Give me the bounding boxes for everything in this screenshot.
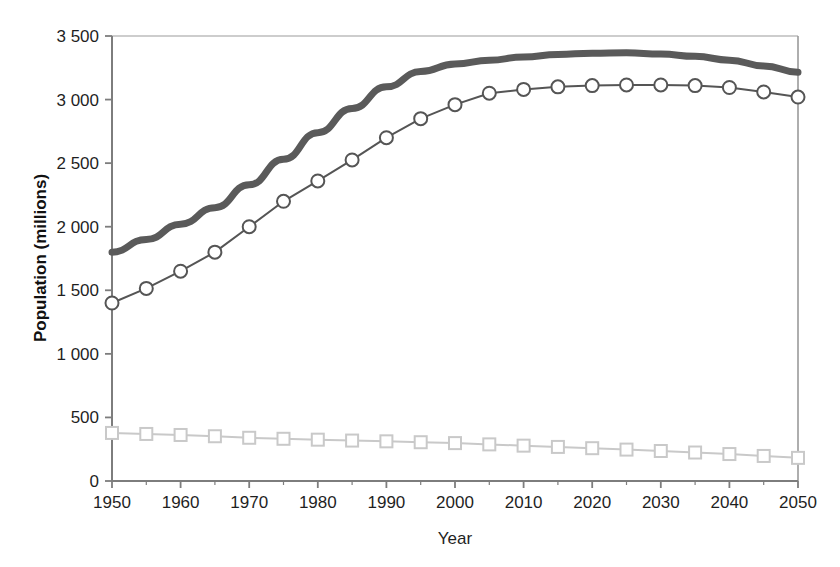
x-tick-label: 1990 bbox=[367, 493, 405, 512]
data-point-circle bbox=[208, 246, 221, 259]
data-point-square bbox=[689, 447, 701, 459]
data-point-circle bbox=[517, 83, 530, 96]
y-tick-label: 3 000 bbox=[56, 91, 99, 110]
x-axis-title: Year bbox=[438, 529, 473, 548]
data-point-square bbox=[792, 452, 804, 464]
data-point-circle bbox=[346, 153, 359, 166]
population-line-chart: 05001 0001 5002 0002 5003 0003 500 19501… bbox=[0, 0, 840, 567]
x-tick-label: 1970 bbox=[230, 493, 268, 512]
data-point-circle bbox=[586, 79, 599, 92]
data-point-circle bbox=[414, 112, 427, 125]
data-point-square bbox=[758, 450, 770, 462]
data-point-square bbox=[380, 435, 392, 447]
data-point-circle bbox=[449, 98, 462, 111]
x-tick-label: 2020 bbox=[573, 493, 611, 512]
x-tick-label: 1980 bbox=[299, 493, 337, 512]
data-point-square bbox=[278, 433, 290, 445]
data-point-circle bbox=[243, 220, 256, 233]
y-tick-label: 2 500 bbox=[56, 154, 99, 173]
chart-canvas: 05001 0001 5002 0002 5003 0003 500 19501… bbox=[0, 0, 840, 567]
data-point-square bbox=[483, 438, 495, 450]
x-tick-label: 2010 bbox=[505, 493, 543, 512]
data-point-circle bbox=[723, 81, 736, 94]
data-point-square bbox=[552, 441, 564, 453]
x-tick-label: 2030 bbox=[642, 493, 680, 512]
data-point-square bbox=[140, 428, 152, 440]
data-point-square bbox=[106, 427, 118, 439]
y-tick-label: 2 000 bbox=[56, 218, 99, 237]
x-tick-label: 1960 bbox=[162, 493, 200, 512]
data-point-circle bbox=[174, 265, 187, 278]
data-point-square bbox=[655, 445, 667, 457]
data-point-square bbox=[621, 444, 633, 456]
data-point-square bbox=[346, 435, 358, 447]
data-point-circle bbox=[311, 174, 324, 187]
data-point-circle bbox=[140, 282, 153, 295]
y-tick-label: 1 000 bbox=[56, 345, 99, 364]
y-tick-label: 500 bbox=[71, 408, 99, 427]
x-tick-label: 2050 bbox=[779, 493, 817, 512]
data-point-circle bbox=[620, 78, 633, 91]
y-tick-label: 1 500 bbox=[56, 281, 99, 300]
data-point-square bbox=[586, 442, 598, 454]
data-point-square bbox=[415, 436, 427, 448]
y-axis-title: Population (millions) bbox=[31, 174, 50, 342]
y-tick-label: 0 bbox=[90, 472, 99, 491]
data-point-circle bbox=[792, 91, 805, 104]
data-point-circle bbox=[551, 80, 564, 93]
data-point-circle bbox=[106, 297, 119, 310]
data-point-square bbox=[209, 430, 221, 442]
data-point-square bbox=[175, 429, 187, 441]
data-point-square bbox=[518, 440, 530, 452]
data-point-circle bbox=[757, 85, 770, 98]
data-point-circle bbox=[483, 87, 496, 100]
y-tick-label: 3 500 bbox=[56, 27, 99, 46]
x-tick-label: 1950 bbox=[93, 493, 131, 512]
x-tick-label: 2000 bbox=[436, 493, 474, 512]
data-point-circle bbox=[654, 78, 667, 91]
data-point-square bbox=[312, 434, 324, 446]
data-point-square bbox=[243, 432, 255, 444]
x-tick-label: 2040 bbox=[710, 493, 748, 512]
data-point-circle bbox=[380, 131, 393, 144]
data-point-circle bbox=[277, 195, 290, 208]
data-point-circle bbox=[689, 79, 702, 92]
data-point-square bbox=[449, 437, 461, 449]
data-point-square bbox=[723, 448, 735, 460]
